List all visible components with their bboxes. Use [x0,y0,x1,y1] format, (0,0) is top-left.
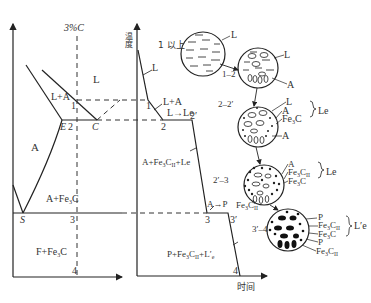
curve-point-1-label: 1 [146,101,151,111]
segment-l-a-label: L+A [163,97,182,107]
region-ferrite-cementite-label: F+Fe3C [36,247,67,258]
micro-5-le-label: L′e [354,221,367,231]
region-austenite-cementite-label: A+Fe3C [46,194,79,205]
micro-2-a-label: A [287,80,294,90]
micro-2-l-label: L [284,50,290,60]
micro-1-l-label: L [231,30,237,40]
segment-l-label: L [152,63,158,73]
micro-5-fe3cii-bottom-label: Fe3CII [316,247,338,257]
micro-4-le-label: Le [326,167,337,177]
point-e-label: E [60,122,66,132]
iron-carbon-cooling-diagram: 3%C L L+A 1 E 2 C A A+Fe3C S 3 F+Fe3C 4 … [0,0,371,303]
composition-label: 3%C [64,23,84,33]
point-4-label: 4 [72,266,77,276]
micro-3-a2-label: A [282,131,289,141]
curve-point-3prime-label: 3′ [230,215,237,225]
stage-1-label: 1 以上 [158,41,185,50]
region-liquid-label: L [93,74,100,85]
point-c-label: C [92,122,99,132]
micro-1 [181,32,225,76]
curve-point-3-label: 3 [205,215,210,225]
curve-point-2prime-label: 2′ [190,111,197,121]
region-liquid-austenite-label: L+A [51,92,70,102]
stage-2-label: 1–2 [222,70,236,79]
micro-3-fe3c-label: Fe3C [282,114,302,125]
temperature-axis-label: 温度 [123,32,131,48]
micro-4-fe3cii-bottom-label: Fe3CII [236,201,258,211]
stage-4-label: 2′–3 [213,176,228,185]
curve-point-4-label: 4 [233,266,238,276]
segment-a-fe3cii-le-label: A+Fe3CII+Le [142,158,190,168]
curve-point-2-label: 2 [161,122,166,132]
micro-3-le-label: Le [318,106,329,116]
region-austenite-label: A [31,142,39,153]
point-s-label: S [20,215,25,225]
time-axis-label: 时间 [237,283,255,292]
point-2-label: 2 [68,122,73,132]
stage-5-label: 3′–4 [252,225,267,234]
micro-4-fe3c-label: Fe3C [288,177,306,187]
point-3-label: 3 [70,215,75,225]
segment-p-fe3cii-le-label: P+Fe3CII+L′e [167,250,214,260]
stage-3-label: 2–2′ [218,100,233,109]
point-1-label: 1 [71,101,76,111]
segment-a-p-label: A→P [207,200,228,209]
